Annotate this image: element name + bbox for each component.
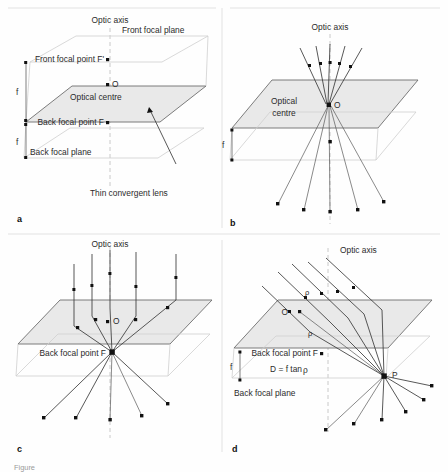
panel-b-letter: b — [230, 218, 236, 228]
panel-a-centre-point-label: O — [112, 79, 119, 89]
panel-d-focus-point-dot — [381, 373, 386, 378]
panel-a-dim-tick-4 — [24, 156, 27, 159]
panel-d-arrow-out-2 — [352, 422, 355, 425]
panel-d-angle-lower-label: ρ — [308, 329, 313, 338]
panel-d-dim-tick-2 — [238, 379, 241, 382]
panel-d-arrow-out-5 — [422, 398, 425, 401]
panel-b-dim-tick-1 — [230, 129, 233, 132]
panel-b-arrow-in-2 — [319, 62, 322, 65]
panel-b-arrow-out-4 — [356, 208, 359, 211]
panel-b-arrow-in-1 — [308, 64, 311, 67]
panel-a-dim-tick-1 — [24, 61, 27, 64]
panel-b-arrow-in-5 — [349, 65, 352, 68]
panel-c-arrow-bend-3 — [134, 318, 137, 321]
panel-a-optical-centre-dot — [106, 83, 109, 86]
panel-d-arrow-in-3 — [320, 292, 323, 295]
panel-c-arrow-in-4 — [134, 285, 137, 288]
panel-a-front-focal-point-label: Front focal point F' — [35, 54, 104, 64]
panel-d-arrow-out-4 — [404, 410, 407, 413]
panel-d-back-focal-dot — [320, 352, 323, 355]
panel-d-arrow-out-3 — [380, 418, 383, 421]
panel-d-focus-point-label: P — [392, 370, 398, 380]
panel-b-optical-centre-line1: Optical — [271, 96, 297, 106]
panel-a-dim-tick-2 — [24, 119, 27, 122]
panel-d-angle-upper-label: ρ — [305, 288, 310, 297]
panel-b-arrow-in-3 — [329, 61, 332, 64]
panel-d-optical-centre-dot — [298, 310, 301, 313]
panel-b-dim-tick-2 — [230, 159, 233, 162]
panel-c-arrow-out-5 — [166, 402, 169, 405]
panel-c-back-focal-point-label: Back focal point F — [39, 348, 106, 358]
panel-c-arrow-out-1 — [42, 416, 45, 419]
panel-d-centre-point-label: O — [281, 307, 288, 317]
panel-a-back-focal-plane-label: Back focal plane — [30, 147, 92, 157]
panel-c-arrow-bend-2 — [94, 318, 97, 321]
panel-d-formula-symbol: ρ — [303, 365, 308, 375]
panel-a-dim-tick-3 — [24, 123, 27, 126]
panel-b-arrow-out-1 — [276, 202, 279, 205]
panel-d-back-focal-plane-label: Back focal plane — [234, 388, 296, 398]
figure-container: .pl { fill:#e9e9e9; stroke:#6e6e6e; stro… — [0, 0, 448, 472]
panel-b-arrow-out-5 — [382, 200, 385, 203]
panel-c-arrow-out-4 — [140, 414, 143, 417]
panel-d-arrow-in-4 — [336, 290, 339, 293]
panel-d-formula-label: D = f tan — [270, 364, 302, 374]
panel-c-arrow-bend-1 — [76, 326, 79, 329]
panel-b-arrow-out-3 — [328, 210, 331, 213]
panel-b-optical-centre-dot — [327, 103, 331, 107]
panel-a-optic-axis-label: Optic axis — [92, 15, 129, 25]
figure-background — [0, 0, 448, 472]
panel-c-arrow-in-3 — [108, 272, 111, 275]
figure-caption: Figure — [14, 463, 35, 472]
panel-a-front-focal-plane-label: Front focal plane — [122, 25, 185, 35]
panel-d-arrow-in-5 — [352, 286, 355, 289]
panel-b-arrow-axis-mid — [328, 140, 331, 143]
panel-d-arrow-in-1 — [288, 310, 291, 313]
panel-c-centre-point-label: O — [113, 316, 120, 326]
panel-c-arrow-in-2 — [90, 284, 93, 287]
panel-d-back-focal-point-label: Back focal point F — [251, 348, 318, 358]
panel-d-dim-tick-1 — [238, 351, 241, 354]
panel-b-arrow-in-4 — [338, 62, 341, 65]
panel-c-optic-axis-label: Optic axis — [92, 239, 129, 249]
panel-c-arrow-bend-4 — [166, 306, 169, 309]
panel-c-back-focal-dot — [109, 349, 114, 354]
panel-b-optical-centre-line2: centre — [272, 108, 296, 118]
panel-a-optical-centre-label: Optical centre — [70, 92, 122, 102]
panel-b-arrow-out-2 — [302, 208, 305, 211]
panel-d-arrow-out-6 — [430, 384, 433, 387]
panel-c-arrow-out-2 — [74, 416, 77, 419]
panel-d-letter: d — [232, 444, 238, 454]
panel-a-back-focal-dot — [106, 121, 109, 124]
panel-c-optical-centre-dot — [106, 320, 109, 323]
panel-a-front-focal-dot — [106, 58, 109, 61]
optics-figure-svg: .pl { fill:#e9e9e9; stroke:#6e6e6e; stro… — [0, 0, 448, 472]
panel-d-optic-axis-label: Optic axis — [340, 245, 377, 255]
panel-c-arrow-out-3 — [108, 418, 111, 421]
panel-c-arrow-in-1 — [72, 288, 75, 291]
panel-c-arrow-in-5 — [174, 276, 177, 279]
panel-d-arrow-out-1 — [324, 428, 327, 431]
panel-a-lens-callout-label: Thin convergent lens — [90, 188, 168, 198]
panel-b-optic-axis-label: Optic axis — [312, 22, 349, 32]
panel-c-letter: c — [17, 444, 22, 454]
panel-b-centre-point-label: O — [334, 100, 341, 110]
panel-a-back-focal-point-label: Back focal point F — [37, 117, 104, 127]
